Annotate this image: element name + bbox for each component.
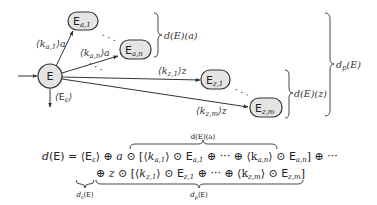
ellipsis-a: · · · bbox=[100, 29, 118, 45]
label-edge-eps: ⟨Eε⟩ bbox=[55, 91, 72, 104]
node-zm: Ez,m bbox=[250, 98, 282, 117]
ellipsis-z: · · · bbox=[233, 84, 251, 100]
node-an: Ea,n bbox=[120, 40, 151, 59]
underbrace-p bbox=[96, 180, 303, 188]
node-root: E bbox=[38, 64, 62, 88]
brace-dp bbox=[325, 13, 334, 116]
edge-z1 bbox=[62, 77, 200, 80]
overbrace bbox=[130, 140, 277, 149]
brace-da bbox=[154, 13, 162, 57]
brace-da-label: d(E)(a) bbox=[164, 30, 198, 41]
underbrace-eps-label: dε(E) bbox=[77, 191, 94, 200]
label-edge-a1: ⟨ka,1⟩a bbox=[36, 38, 66, 51]
underbrace-eps bbox=[76, 180, 94, 188]
brace-dz bbox=[285, 70, 293, 118]
underbrace-p-label: dp(E) bbox=[190, 191, 208, 201]
overbrace-label: d(E)(a) bbox=[191, 133, 216, 141]
formula-line-2: ⊕ z ⊙ [⟨kz,1⟩ ⊙ Ez,1 ⊕ ··· ⊕ ⟨kz,m⟩ ⊙ Ez… bbox=[96, 167, 305, 181]
brace-dp-label: dp(E) bbox=[336, 59, 361, 72]
formula: d(E)(a) d(E) = ⟨Eε⟩ ⊕ a ⊙ [⟨ka,1⟩ ⊙ Ea,1… bbox=[42, 133, 338, 201]
node-a1: Ea,1 bbox=[68, 12, 98, 30]
svg-text:E: E bbox=[47, 70, 54, 83]
brace-dz-label: d(E)(z) bbox=[294, 88, 327, 99]
node-z1: Ez,1 bbox=[201, 70, 230, 89]
formula-line-1: d(E) = ⟨Eε⟩ ⊕ a ⊙ [⟨ka,1⟩ ⊙ Ea,1 ⊕ ··· ⊕… bbox=[42, 150, 338, 164]
label-edge-z1: ⟨kz,1⟩z bbox=[158, 65, 188, 78]
label-edge-zm: ⟨kz,m⟩z bbox=[196, 105, 228, 118]
label-edge-an: ⟨ka,n⟩a bbox=[80, 47, 110, 60]
automaton-derivative-diagram: E Ea,1 Ea,n Ez,1 Ez,m ⟨ka,1⟩a ⟨ka,n⟩a ⟨k… bbox=[0, 0, 377, 205]
